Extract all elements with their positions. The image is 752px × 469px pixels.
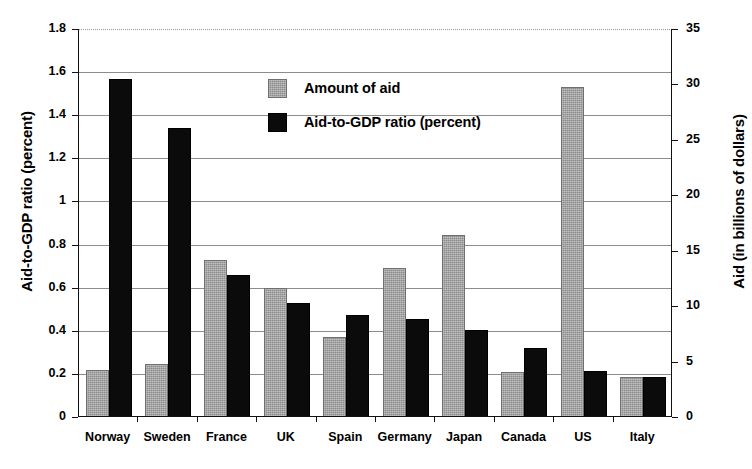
x-axis-group-tick: [316, 417, 317, 422]
x-axis-label-norway: Norway: [78, 430, 137, 444]
chart-legend: Amount of aid Aid-to-GDP ratio (percent): [268, 71, 568, 139]
x-axis-group-tick: [256, 417, 257, 422]
bar-amount-of-aid: [442, 235, 465, 417]
bar-aid-to-gdp-ratio: [406, 319, 429, 417]
legend-label-aid-to-gdp-ratio: Aid-to-GDP ratio (percent): [304, 114, 481, 130]
x-axis-label-italy: Italy: [613, 430, 672, 444]
bar-amount-of-aid: [264, 288, 287, 417]
y-tick-label-right: 10: [686, 299, 746, 312]
y-tick-right: [672, 417, 678, 418]
x-axis-group-tick: [553, 417, 554, 422]
x-axis-label-us: US: [553, 430, 612, 444]
axis-line-right: [671, 29, 672, 417]
x-axis-label-france: France: [197, 430, 256, 444]
bar-amount-of-aid: [323, 337, 346, 417]
x-axis-label-germany: Germany: [375, 430, 434, 444]
bar-aid-to-gdp-ratio: [465, 330, 488, 417]
bar-group: [137, 29, 196, 417]
y-axis-title-right: Aid (in billions of dollars): [730, 64, 747, 339]
x-axis-group-tick: [197, 417, 198, 422]
bar-aid-to-gdp-ratio: [168, 128, 191, 417]
y-tick-right: [672, 195, 678, 196]
y-tick-label-left: 1.8: [6, 22, 66, 35]
legend-label-amount-of-aid: Amount of aid: [304, 80, 400, 96]
y-tick-right: [672, 362, 678, 363]
bar-aid-to-gdp-ratio: [227, 275, 250, 417]
y-tick-label-left: 0.2: [6, 367, 66, 380]
bar-amount-of-aid: [620, 377, 643, 417]
bar-aid-to-gdp-ratio: [584, 371, 607, 417]
bar-group: [613, 29, 672, 417]
y-tick-left: [72, 417, 78, 418]
axis-line-left: [78, 29, 79, 417]
y-tick-label-left: 0.6: [6, 281, 66, 294]
bar-chart: Aid-to-GDP ratio (percent) Aid (in billi…: [0, 0, 752, 469]
y-tick-label-right: 35: [686, 22, 746, 35]
bar-aid-to-gdp-ratio: [346, 315, 369, 417]
x-axis-group-tick: [494, 417, 495, 422]
y-tick-label-left: 1: [6, 194, 66, 207]
bar-aid-to-gdp-ratio: [524, 348, 547, 417]
x-axis-label-canada: Canada: [494, 430, 553, 444]
x-axis-label-japan: Japan: [434, 430, 493, 444]
x-axis-label-sweden: Sweden: [137, 430, 196, 444]
legend-swatch-aid-to-gdp-ratio: [268, 113, 287, 132]
bar-group: [197, 29, 256, 417]
y-tick-label-left: 1.4: [6, 108, 66, 121]
x-axis-label-uk: UK: [256, 430, 315, 444]
y-tick-label-right: 0: [686, 410, 746, 423]
y-tick-label-right: 20: [686, 188, 746, 201]
x-axis-group-tick: [434, 417, 435, 422]
x-axis-group-tick: [137, 417, 138, 422]
y-tick-right: [672, 84, 678, 85]
bar-group: [78, 29, 137, 417]
x-axis-group-tick: [613, 417, 614, 422]
legend-item-amount-of-aid: Amount of aid: [268, 71, 568, 105]
y-tick-right: [672, 306, 678, 307]
y-tick-label-left: 0: [6, 410, 66, 423]
y-tick-right: [672, 140, 678, 141]
axis-line-bottom: [78, 416, 672, 417]
y-tick-label-left: 1.6: [6, 65, 66, 78]
y-tick-label-right: 15: [686, 244, 746, 257]
y-tick-label-left: 0.8: [6, 238, 66, 251]
y-tick-label-left: 0.4: [6, 324, 66, 337]
y-tick-label-right: 25: [686, 133, 746, 146]
legend-swatch-amount-of-aid: [268, 79, 287, 98]
legend-item-aid-to-gdp-ratio: Aid-to-GDP ratio (percent): [268, 105, 568, 139]
bar-aid-to-gdp-ratio: [287, 303, 310, 417]
x-axis-group-tick: [375, 417, 376, 422]
x-axis-category-labels: NorwaySwedenFranceUKSpainGermanyJapanCan…: [78, 430, 672, 454]
x-axis-label-spain: Spain: [316, 430, 375, 444]
bar-aid-to-gdp-ratio: [109, 79, 132, 417]
bar-amount-of-aid: [501, 372, 524, 417]
bar-amount-of-aid: [145, 364, 168, 417]
y-tick-right: [672, 29, 678, 30]
y-tick-label-left: 1.2: [6, 151, 66, 164]
bar-amount-of-aid: [383, 268, 406, 417]
bar-amount-of-aid: [86, 370, 109, 417]
y-tick-label-right: 30: [686, 77, 746, 90]
bar-amount-of-aid: [204, 260, 227, 417]
y-tick-label-right: 5: [686, 355, 746, 368]
y-tick-right: [672, 251, 678, 252]
bar-aid-to-gdp-ratio: [643, 377, 666, 417]
